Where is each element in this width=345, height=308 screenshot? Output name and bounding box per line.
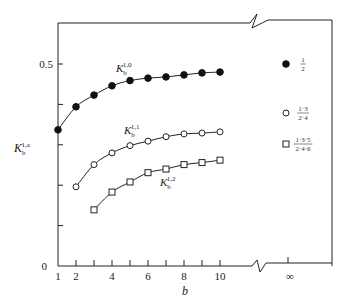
open-circle-marker [73,184,79,190]
legend-item: 1·3·52·4·6 [283,136,313,153]
limit-legend: 121·32·41·3·52·4·6 [283,56,313,153]
chart: 121·32·41·3·52·4·6 0 0.5 Kb1,a b ∞ 12468… [0,0,345,308]
open-square-marker [127,179,133,185]
open-circle-marker [127,143,133,149]
open-square-marker [145,170,151,176]
x-tick-label: 1 [55,270,61,282]
filled-circle-marker [55,127,62,134]
open-circle-marker [217,129,223,135]
y-tick-label-half: 0.5 [39,58,53,70]
limit-numerator: 1 [301,56,305,64]
limit-numerator: 1·3 [298,105,308,113]
open-square-marker [91,207,97,213]
open-circle-marker [283,110,289,116]
legend-item: 12 [283,56,306,73]
x-tick-label: 4 [109,270,115,282]
filled-circle-marker [127,77,134,84]
series-line [58,72,220,130]
filled-circle-marker [199,70,206,77]
series-1-2 [91,157,223,213]
y-tick-label-zero: 0 [42,260,48,272]
open-square-marker [283,141,289,147]
x-tick-label: 10 [215,270,227,282]
filled-circle-marker [217,69,224,76]
curve-label-k12: Kb1,2 [159,175,176,191]
open-circle-marker [91,162,97,168]
filled-circle-marker [73,104,80,111]
x-tick-label: 8 [181,270,187,282]
data-series [55,69,224,213]
filled-circle-marker [91,92,98,99]
y-axis-ticks [58,64,63,226]
open-square-marker [199,160,205,166]
open-circle-marker [163,134,169,140]
filled-circle-marker [163,74,170,81]
open-square-marker [181,162,187,168]
filled-circle-marker [181,72,188,79]
filled-circle-marker [283,61,290,68]
x-tick-label: 2 [73,270,79,282]
limit-denominator: 2 [301,65,305,73]
limit-denominator: 2·4 [298,114,308,122]
series-line [94,160,220,210]
open-circle-marker [145,138,151,144]
plot-frame [58,14,332,272]
x-tick-labels: 1246810 [55,270,226,282]
limit-denominator: 2·4·6 [295,145,311,153]
open-circle-marker [181,131,187,137]
limit-numerator: 1·3·5 [295,136,311,144]
open-square-marker [163,166,169,172]
open-square-marker [109,189,115,195]
x-tick-label-infinity: ∞ [286,270,294,282]
open-circle-marker [199,130,205,136]
open-circle-marker [109,150,115,156]
curve-label-k10: Kb1,0 [115,61,132,77]
open-square-marker [217,157,223,163]
filled-circle-marker [145,75,152,82]
filled-circle-marker [109,83,116,90]
x-axis-label: b [182,284,188,298]
x-tick-label: 6 [145,270,151,282]
legend-item: 1·32·4 [283,105,309,122]
curve-label-k11: Kb1,1 [123,123,140,139]
y-axis-label: Kb1,a [13,141,31,157]
